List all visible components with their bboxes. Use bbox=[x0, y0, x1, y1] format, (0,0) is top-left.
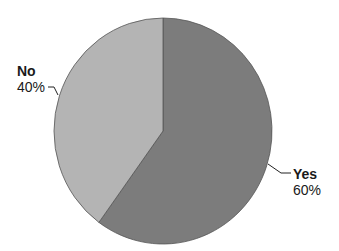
label-yes-percent: 60% bbox=[293, 182, 321, 198]
leader-yes bbox=[268, 164, 291, 173]
label-no: No 40% bbox=[17, 63, 45, 95]
label-yes: Yes 60% bbox=[293, 166, 321, 198]
pie-chart bbox=[0, 0, 339, 251]
label-yes-name: Yes bbox=[293, 166, 321, 182]
leader-no bbox=[48, 87, 58, 95]
label-no-percent: 40% bbox=[17, 79, 45, 95]
label-no-name: No bbox=[17, 63, 45, 79]
